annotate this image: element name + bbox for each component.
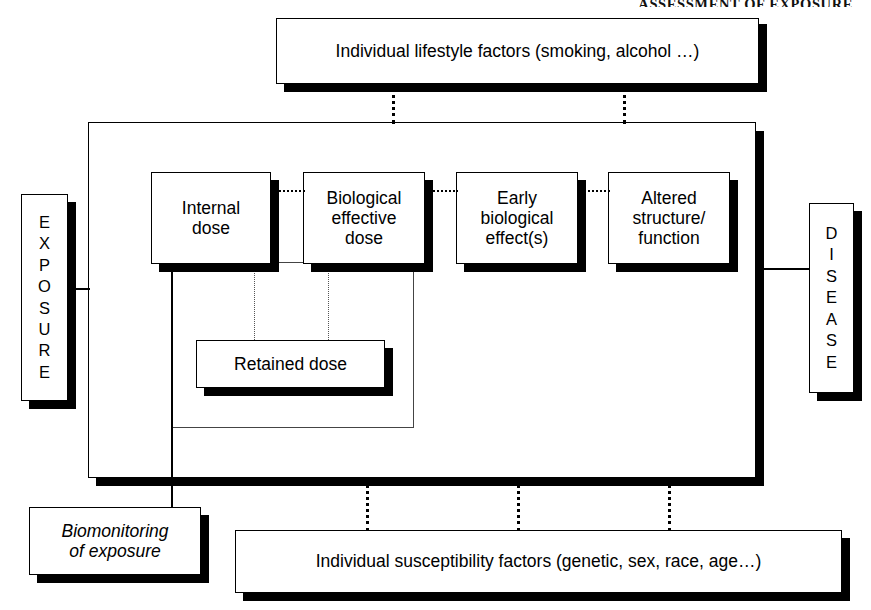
connector-internal-to-retained — [254, 264, 255, 340]
connector-biological-to-retained — [328, 264, 329, 340]
exposure-letter: X — [39, 233, 50, 254]
disease-letter: S — [826, 266, 837, 287]
stage-box-internal-dose: Internaldose — [151, 172, 271, 264]
stage-box-biological-effective-dose: Biologicaleffectivedose — [303, 172, 425, 264]
connector-susceptibility-left — [366, 484, 369, 532]
connector-biological-to-early — [426, 190, 458, 192]
connector-internal-dose-to-biomonitoring — [171, 264, 173, 528]
exposure-letter: U — [39, 319, 51, 340]
exposure-letter: E — [39, 362, 50, 383]
endpoint-box-disease: D I S E A S E — [809, 203, 854, 393]
stage-label-altered-structure-function: Alteredstructure/function — [627, 188, 712, 249]
exposure-letter: O — [38, 276, 51, 297]
stage-label-internal-dose: Internaldose — [176, 198, 246, 239]
exposure-letter: R — [39, 340, 51, 361]
connector-susceptibility-mid — [517, 484, 520, 532]
disease-letter: E — [826, 352, 837, 373]
retained-dose-box: Retained dose — [196, 340, 385, 388]
bottom-modifier-label: Individual susceptibility factors (genet… — [310, 551, 767, 571]
exposure-letter: E — [39, 212, 50, 233]
biomonitoring-label: Biomonitoringof exposure — [56, 521, 175, 562]
disease-letter: D — [826, 223, 838, 244]
stage-label-early-biological-effect: Earlybiologicaleffect(s) — [475, 188, 560, 249]
bottom-modifier-box: Individual susceptibility factors (genet… — [235, 530, 842, 593]
connector-internal-to-biological — [272, 190, 305, 192]
connector-early-to-altered — [579, 190, 610, 192]
diagram-canvas: ASSESSMENT OF EXPOSURE Individual lifest… — [0, 0, 871, 610]
top-modifier-box: Individual lifestyle factors (smoking, a… — [276, 18, 759, 84]
connector-frame-to-disease — [763, 268, 811, 270]
exposure-letters: E X P O S U R E — [38, 212, 51, 384]
connector-susceptibility-right — [668, 484, 671, 532]
stage-box-early-biological-effect: Earlybiologicaleffect(s) — [456, 172, 578, 264]
page-running-head: ASSESSMENT OF EXPOSURE — [638, 0, 853, 7]
exposure-letter: S — [39, 298, 50, 319]
connector-lifestyle-left — [392, 88, 395, 124]
outer-frame-shadow-right — [755, 131, 764, 486]
stage-label-biological-effective-dose: Biologicaleffectivedose — [321, 188, 408, 249]
outer-frame-shadow-bottom — [96, 477, 764, 486]
exposure-letter: P — [39, 255, 50, 276]
retained-dose-label: Retained dose — [228, 354, 353, 374]
disease-letter: I — [829, 244, 834, 265]
endpoint-box-exposure: E X P O S U R E — [21, 194, 68, 401]
disease-letter: S — [826, 330, 837, 351]
connector-lifestyle-right — [623, 88, 626, 124]
biomonitoring-box: Biomonitoringof exposure — [29, 507, 201, 575]
top-modifier-label: Individual lifestyle factors (smoking, a… — [330, 41, 706, 61]
stage-box-altered-structure-function: Alteredstructure/function — [608, 172, 730, 264]
disease-letter: E — [826, 287, 837, 308]
disease-letter: A — [826, 309, 837, 330]
disease-letters: D I S E A S E — [826, 223, 838, 373]
